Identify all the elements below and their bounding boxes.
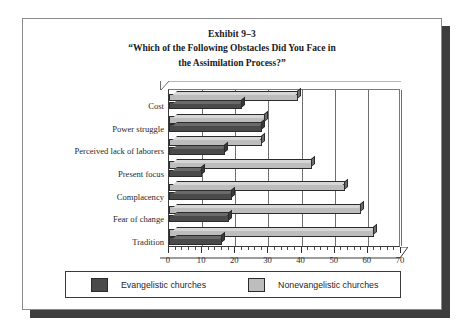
bar-end-cap	[261, 119, 265, 130]
bar-end-cap	[297, 88, 301, 99]
axis-tick	[195, 247, 196, 250]
bar-top-face	[172, 167, 204, 171]
bar-top-face	[172, 181, 347, 185]
bar-group	[169, 158, 401, 181]
bar-top-face	[172, 114, 267, 118]
plot-area	[168, 89, 400, 247]
bar-end-cap	[241, 97, 245, 108]
axis-tick	[241, 247, 242, 250]
axis-tick	[267, 247, 268, 253]
category-label: Complacency	[24, 193, 164, 202]
axis-tick	[307, 247, 308, 250]
axis-tick	[188, 247, 189, 250]
category-label: Perceived lack of laborers	[24, 147, 164, 156]
legend-item-nonevangelistic: Nonevangelistic churches	[248, 278, 378, 292]
axis-tick	[201, 247, 202, 253]
bar-end-cap	[224, 142, 228, 153]
bar-group	[169, 225, 401, 248]
bar-top-face	[172, 100, 244, 104]
axis-tick	[320, 247, 321, 250]
category-label: Cost	[24, 102, 164, 111]
axis-tick	[221, 247, 222, 250]
axis-tick	[294, 247, 295, 250]
axis-tick	[327, 247, 328, 250]
value-axis: 010203040506070	[168, 247, 400, 269]
bar-top-face	[172, 235, 224, 239]
axis-tick-label: 50	[329, 255, 338, 265]
axis-tick-label: 10	[197, 255, 206, 265]
bar-evangelistic	[169, 147, 225, 155]
legend-swatch-nonevangelistic	[248, 278, 265, 292]
chart-legend: Evangelistic churches Nonevangelistic ch…	[65, 271, 401, 298]
bar-top-face	[172, 145, 228, 149]
axis-tick	[301, 247, 302, 253]
bar-end-cap	[261, 133, 265, 144]
bar-top-face	[172, 159, 314, 163]
bar-evangelistic	[169, 237, 222, 245]
bar-end-cap	[231, 187, 235, 198]
axis-tick	[261, 247, 262, 250]
bar-group	[169, 180, 401, 203]
axis-tick-label: 20	[230, 255, 239, 265]
bar-group	[169, 135, 401, 158]
axis-tick	[248, 247, 249, 250]
bar-end-cap	[221, 232, 225, 243]
legend-label-nonevangelistic: Nonevangelistic churches	[278, 280, 378, 290]
exhibit-card: Exhibit 9–3 “Which of the Following Obst…	[22, 18, 442, 310]
bar-end-cap	[360, 201, 364, 212]
axis-tick	[360, 247, 361, 250]
axis-tick	[175, 247, 176, 250]
bar-evangelistic	[169, 170, 202, 178]
axis-tick-label: 60	[363, 255, 372, 265]
axis-tick	[387, 247, 388, 250]
axis-tick-label: 30	[263, 255, 272, 265]
axis-tick	[334, 247, 335, 253]
axis-tick	[314, 247, 315, 250]
category-label: Present focus	[24, 170, 164, 179]
axis-tick	[228, 247, 229, 250]
bar-top-face	[172, 212, 231, 216]
legend-swatch-evangelistic	[91, 278, 108, 292]
category-axis-labels: CostPower strugglePerceived lack of labo…	[23, 89, 164, 247]
axis-tick	[234, 247, 235, 253]
axis-tick	[380, 247, 381, 250]
legend-item-evangelistic: Evangelistic churches	[91, 278, 206, 292]
bar-group	[169, 113, 401, 136]
bar-evangelistic	[169, 192, 232, 200]
axis-tick	[208, 247, 209, 250]
category-label: Power struggle	[24, 125, 164, 134]
bar-top-face	[172, 204, 363, 208]
bar-end-cap	[344, 178, 348, 189]
axis-tick	[168, 247, 169, 253]
axis-tick	[393, 247, 394, 250]
bar-end-cap	[201, 164, 205, 175]
axis-tick	[347, 247, 348, 250]
bar-end-cap	[311, 156, 315, 167]
bar-evangelistic	[169, 102, 242, 110]
axis-tick	[373, 247, 374, 250]
bar-end-cap	[373, 224, 377, 235]
axis-tick	[214, 247, 215, 250]
axis-tick	[181, 247, 182, 250]
category-label: Fear of change	[24, 215, 164, 224]
bar-top-face	[172, 190, 234, 194]
axis-tick	[400, 247, 401, 253]
legend-label-evangelistic: Evangelistic churches	[121, 280, 206, 290]
bar-top-face	[172, 122, 264, 126]
bar-group	[169, 90, 401, 113]
axis-tick	[287, 247, 288, 250]
bar-top-face	[172, 227, 377, 231]
axis-tick	[281, 247, 282, 250]
bar-evangelistic	[169, 124, 262, 132]
bar-evangelistic	[169, 215, 229, 223]
axis-tick-label: 70	[396, 255, 405, 265]
axis-tick-label: 0	[166, 255, 170, 265]
bar-top-face	[172, 91, 300, 95]
axis-tick	[254, 247, 255, 250]
axis-tick	[274, 247, 275, 250]
gridline-70	[401, 90, 402, 246]
axis-tick	[340, 247, 341, 250]
category-label: Tradition	[24, 238, 164, 247]
bar-group	[169, 203, 401, 226]
bar-top-face	[172, 136, 264, 140]
